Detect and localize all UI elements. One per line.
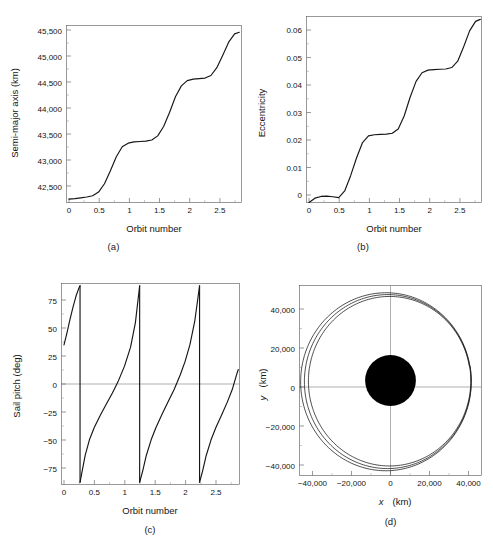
panel-a-frame	[67, 26, 242, 203]
x-tick-label: 0	[307, 206, 312, 215]
y-tick-label: 0.04	[286, 81, 302, 90]
x-tick-label: 2	[187, 206, 192, 215]
panel-b-svg: 0 0.01 0.02 0.03 0.04 0.05 0.06 Eccentri…	[247, 0, 493, 250]
y-tick-label: −40,000	[266, 462, 296, 471]
panel-d-y-tick-labels: 40,000 20,000 0 −20,000 −40,000	[266, 306, 296, 471]
x-tick-label: 2.5	[214, 206, 226, 215]
panel-a-y-tick-labels: 42,500 43,000 43,500 44,000 44,500 45,00…	[38, 27, 63, 192]
panel-c-x-axis-title: Orbit number	[122, 505, 177, 516]
central-body-earth	[365, 355, 416, 406]
panel-b-frame	[307, 17, 482, 203]
y-tick-label: 25	[48, 353, 57, 362]
panel-c-sail-pitch: 75 50 25 0 −25 −50 −75 Sail pitch (deg)	[0, 268, 247, 540]
panel-c-svg: 75 50 25 0 −25 −50 −75 Sail pitch (deg)	[0, 268, 247, 540]
y-tick-label: 0.05	[286, 54, 302, 63]
panel-c-segment-1	[64, 286, 80, 345]
panel-b-eccentricity: 0 0.01 0.02 0.03 0.04 0.05 0.06 Eccentri…	[247, 0, 493, 250]
y-tick-label: 44,500	[38, 79, 63, 88]
x-tick-label: 40,000	[456, 479, 481, 488]
y-tick-label: 43,000	[38, 157, 63, 166]
panel-b-y-axis-title: Eccentricity	[256, 88, 267, 137]
x-tick-label: 20,000	[417, 479, 442, 488]
y-tick-label: 0	[291, 384, 296, 393]
x-tick-label: 1	[367, 206, 372, 215]
y-tick-label: 0	[53, 381, 58, 390]
y-tick-label: 0.02	[286, 136, 302, 145]
panel-a-semi-major-axis: 42,500 43,000 43,500 44,000 44,500 45,00…	[0, 0, 247, 250]
y-tick-label: 45,000	[38, 53, 63, 62]
panel-c-segment-4	[200, 369, 239, 482]
panel-c-x-tick-labels: 0 0.5 1 1.5 2 2.5	[62, 488, 222, 497]
y-tick-label: 42,500	[38, 183, 63, 192]
y-tick-label: 20,000	[271, 345, 296, 354]
panel-b-ticks	[307, 30, 476, 203]
y-tick-label: −25	[43, 409, 57, 418]
panel-a-ticks	[67, 30, 236, 203]
y-tick-label: 44,000	[38, 105, 63, 114]
x-tick-label: 2.5	[454, 206, 466, 215]
x-tick-label: 2	[183, 488, 188, 497]
y-tick-label: 40,000	[271, 306, 296, 315]
panel-b-x-axis-title: Orbit number	[366, 223, 421, 234]
panel-a-svg: 42,500 43,000 43,500 44,000 44,500 45,00…	[0, 0, 247, 250]
panel-d-trajectory: 40,000 20,000 0 −20,000 −40,000 y (km)	[247, 268, 493, 540]
x-tick-label: 2	[427, 206, 432, 215]
y-tick-label: −20,000	[266, 423, 296, 432]
x-tick-label: 1	[123, 488, 128, 497]
panel-d-svg: 40,000 20,000 0 −20,000 −40,000 y (km)	[247, 268, 493, 540]
y-tick-label: 45,500	[38, 27, 63, 36]
x-tick-label: −40,000	[298, 479, 328, 488]
x-tick-label: 1.5	[154, 206, 166, 215]
panel-d-y-axis-symbol: y	[257, 394, 268, 401]
panel-c-caption: (c)	[144, 524, 155, 535]
x-tick-label: −20,000	[337, 479, 367, 488]
y-tick-label: −75	[43, 465, 57, 474]
x-tick-label: 2.5	[210, 488, 222, 497]
y-tick-label: 0.03	[286, 109, 302, 118]
x-tick-label: 1.5	[150, 488, 162, 497]
y-tick-label: 43,500	[38, 131, 63, 140]
panel-b-caption: (b)	[240, 241, 486, 252]
y-tick-label: 0.01	[286, 164, 302, 173]
panel-d-x-tick-labels: −40,000 −20,000 0 20,000 40,000	[298, 479, 481, 488]
panel-a-curve	[69, 32, 239, 199]
panel-b-x-tick-labels: 0 0.5 1 1.5 2 2.5	[307, 206, 466, 215]
y-tick-label: 0	[298, 191, 303, 200]
y-tick-label: −50	[43, 437, 57, 446]
panel-d-x-axis-unit: (km)	[393, 496, 412, 507]
x-tick-label: 0.5	[89, 488, 101, 497]
x-tick-label: 0	[67, 206, 72, 215]
x-tick-label: 0	[62, 488, 67, 497]
panel-d-y-axis-title: y (km)	[257, 369, 268, 402]
y-tick-label: 50	[48, 325, 57, 334]
y-tick-label: 75	[48, 297, 57, 306]
panel-b-curve	[309, 19, 480, 202]
panel-c-y-tick-labels: 75 50 25 0 −25 −50 −75	[43, 297, 57, 474]
x-tick-label: 0	[388, 479, 393, 488]
x-tick-label: 1.5	[394, 206, 406, 215]
panel-b-y-tick-labels: 0 0.01 0.02 0.03 0.04 0.05 0.06	[286, 26, 302, 200]
x-tick-label: 1	[127, 206, 132, 215]
panel-d-caption: (d)	[385, 516, 397, 527]
panel-d-y-axis-unit: (km)	[257, 369, 268, 388]
panel-a-y-axis-title: Semi-major axis (km)	[9, 68, 20, 158]
figure-root: 42,500 43,000 43,500 44,000 44,500 45,00…	[0, 0, 493, 540]
y-tick-label: 0.06	[286, 26, 302, 35]
panel-a-x-tick-labels: 0 0.5 1 1.5 2 2.5	[67, 206, 226, 215]
x-tick-label: 0.5	[334, 206, 346, 215]
panel-a-x-axis-title: Orbit number	[126, 223, 181, 234]
panel-d-x-axis-title: x (km)	[378, 496, 412, 507]
panel-d-x-axis-symbol: x	[378, 496, 385, 507]
panel-c-y-axis-title: Sail pitch (deg)	[11, 354, 22, 417]
x-tick-label: 0.5	[94, 206, 106, 215]
panel-a-caption: (a)	[0, 241, 237, 252]
